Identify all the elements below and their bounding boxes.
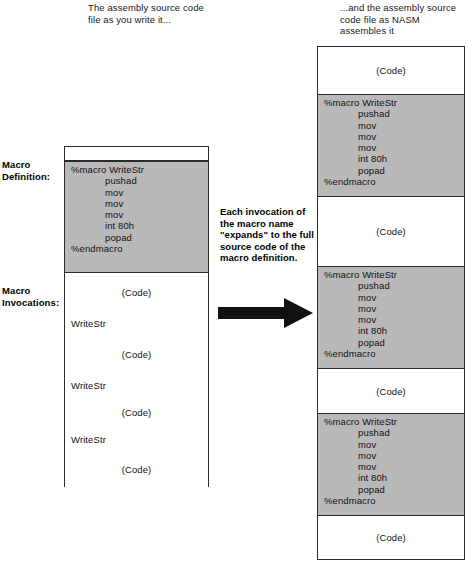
macro-code-line: popad — [318, 337, 464, 348]
macro-definition-block: %macro WriteStrpushadmovmovmovint 80hpop… — [318, 94, 464, 197]
code-placeholder-label: (Code) — [122, 287, 152, 298]
macro-code-line: mov — [318, 314, 464, 325]
code-placeholder-label: (Code) — [376, 386, 406, 397]
macro-code-line: mov — [318, 461, 464, 472]
macro-code-line: %macro WriteStr — [65, 164, 208, 175]
code-placeholder-block: (Code) — [65, 451, 208, 487]
code-placeholder-label: (Code) — [122, 407, 152, 418]
expansion-arrow-icon — [218, 295, 314, 331]
code-placeholder-block: (Code) — [65, 397, 208, 427]
code-placeholder-block: (Code) — [65, 273, 208, 311]
code-placeholder-label: (Code) — [376, 226, 406, 237]
macro-code-line: pushad — [318, 108, 464, 119]
macro-code-line: pushad — [318, 280, 464, 291]
macro-code-line: %endmacro — [318, 176, 464, 187]
label-macro-definition: Macro Definition: — [2, 159, 62, 182]
left-column-caption: The assembly source code file as you wri… — [88, 2, 208, 25]
expansion-explanation-text: Each invocation of the macro name "expan… — [220, 206, 314, 264]
macro-invocation-block: WriteStr — [65, 373, 208, 397]
macro-code-line: %macro WriteStr — [318, 416, 464, 427]
code-placeholder-label: (Code) — [376, 532, 406, 543]
macro-code-line: int 80h — [65, 220, 208, 231]
macro-invocation-label: WriteStr — [71, 318, 106, 329]
macro-code-line: popad — [318, 484, 464, 495]
macro-invocation-block: WriteStr — [65, 311, 208, 335]
code-placeholder-block: (Code) — [318, 197, 464, 266]
macro-definition-block: %macro WriteStrpushadmovmovmovint 80hpop… — [318, 413, 464, 516]
macro-code-line: %endmacro — [318, 348, 464, 359]
macro-code-line: mov — [318, 142, 464, 153]
macro-code-line: mov — [318, 120, 464, 131]
code-placeholder-label: (Code) — [122, 464, 152, 475]
macro-code-line: int 80h — [318, 472, 464, 483]
code-placeholder-label: (Code) — [122, 349, 152, 360]
code-placeholder-block: (Code) — [318, 47, 464, 94]
macro-code-line: mov — [65, 209, 208, 220]
macro-definition-block: %macro WriteStrpushadmovmovmovint 80hpop… — [318, 266, 464, 369]
macro-code-line: %macro WriteStr — [318, 269, 464, 280]
macro-code-line: mov — [318, 450, 464, 461]
code-placeholder-block: (Code) — [318, 516, 464, 558]
macro-invocation-label: WriteStr — [71, 434, 106, 445]
macro-code-line: int 80h — [318, 325, 464, 336]
macro-code-line: mov — [318, 292, 464, 303]
macro-code-line: mov — [65, 187, 208, 198]
macro-code-line: %macro WriteStr — [318, 97, 464, 108]
code-placeholder-block: (Code) — [65, 335, 208, 373]
macro-code-line: mov — [318, 131, 464, 142]
macro-code-line: popad — [65, 232, 208, 243]
macro-code-line: %endmacro — [318, 495, 464, 506]
code-placeholder-block: (Code) — [318, 369, 464, 413]
source-file-after-assembly: (Code)%macro WriteStrpushadmovmovmovint … — [317, 46, 465, 560]
macro-invocation-block: WriteStr — [65, 427, 208, 451]
macro-code-line: pushad — [318, 427, 464, 438]
label-macro-invocations: Macro Invocations: — [2, 285, 64, 308]
macro-code-line: int 80h — [318, 153, 464, 164]
macro-invocation-label: WriteStr — [71, 380, 106, 391]
macro-code-line: %endmacro — [65, 243, 208, 254]
right-column-caption: ...and the assembly source code file as … — [340, 2, 468, 37]
code-placeholder-label: (Code) — [376, 65, 406, 76]
macro-code-line: popad — [318, 165, 464, 176]
source-file-before-assembly: %macro WriteStrpushadmovmovmovint 80hpop… — [64, 146, 209, 487]
macro-definition-block: %macro WriteStrpushadmovmovmovint 80hpop… — [65, 161, 208, 273]
empty-top-strip — [65, 147, 208, 161]
macro-code-line: pushad — [65, 175, 208, 186]
macro-code-line: mov — [318, 303, 464, 314]
macro-code-line: mov — [65, 198, 208, 209]
macro-code-line: mov — [318, 439, 464, 450]
